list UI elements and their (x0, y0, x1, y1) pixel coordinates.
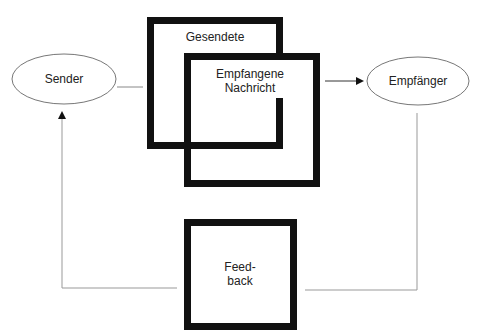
sender-label: Sender (14, 72, 114, 86)
sent-message-label: Gesendete (170, 30, 260, 44)
receiver-to-feedback-line (305, 113, 417, 290)
received-message-line1: Empfangene (200, 67, 300, 81)
receiver-label: Empfänger (368, 74, 468, 88)
received-message-label: Empfangene Nachricht (200, 67, 300, 95)
feedback-line1: Feed- (200, 260, 280, 274)
feedback-line2: back (200, 274, 280, 288)
feedback-label: Feed- back (200, 260, 280, 288)
arrowhead-right-icon (356, 77, 364, 85)
arrowhead-up-icon (58, 111, 66, 119)
received-message-line2: Nachricht (200, 81, 300, 95)
